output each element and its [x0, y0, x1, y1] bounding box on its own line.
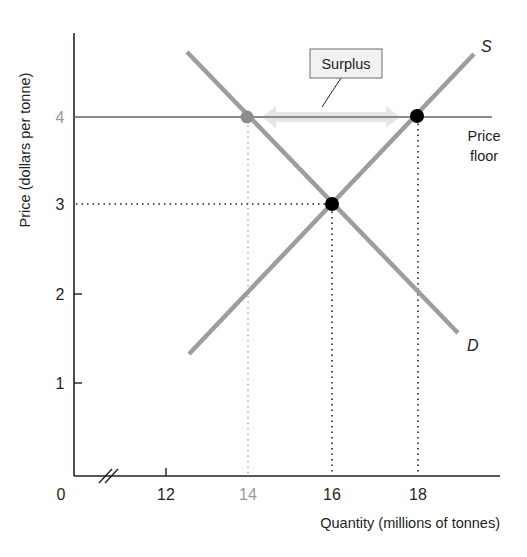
- x-tick-label-14: 14: [239, 486, 257, 503]
- origin-label: 0: [57, 486, 66, 503]
- point-qd-at-floor: [241, 111, 254, 124]
- x-tick-label-16: 16: [323, 486, 341, 503]
- supply-label: S: [481, 38, 492, 55]
- surplus-annotation: Surplus: [310, 49, 382, 107]
- point-equilibrium: [325, 197, 339, 211]
- surplus-leader-line: [322, 78, 341, 107]
- x-tick-label-12: 12: [157, 486, 175, 503]
- price-floor-label-line2: floor: [470, 148, 498, 164]
- axes: [74, 33, 500, 483]
- demand-curve: [187, 52, 458, 333]
- y-axis-title: Price (dollars per tonne): [17, 73, 33, 228]
- y-tick-label-4: 4: [56, 109, 65, 126]
- x-axis-title: Quantity (millions of tonnes): [320, 515, 500, 531]
- surplus-label: Surplus: [321, 56, 370, 72]
- x-tick-labels: 0 12 14 16 18: [57, 486, 427, 503]
- price-floor-label-line1: Price: [467, 128, 500, 144]
- x-tick-label-18: 18: [409, 486, 427, 503]
- y-tick-label-3: 3: [56, 196, 65, 213]
- price-floor-chart: Surplus 4 3 2 1 0 12 14 16 18 Quantity (…: [0, 0, 527, 557]
- y-tick-label-1: 1: [56, 375, 65, 392]
- point-qs-at-floor: [410, 109, 424, 123]
- y-tick-label-2: 2: [56, 286, 65, 303]
- demand-label: D: [467, 337, 479, 354]
- y-tick-labels: 4 3 2 1: [56, 109, 65, 392]
